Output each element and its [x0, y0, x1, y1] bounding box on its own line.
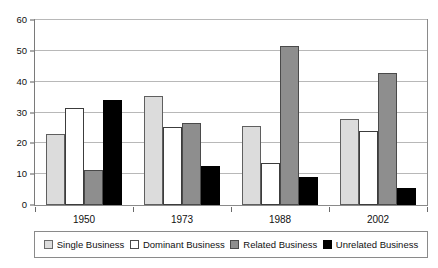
legend-label: Related Business [243, 240, 317, 250]
bar-2002-single [340, 119, 359, 205]
bar-1988-related [280, 46, 299, 205]
y-axis-tick-label: 40 [16, 77, 27, 87]
legend-label: Unrelated Business [336, 240, 418, 250]
legend-item-dominant: Dominant Business [130, 240, 225, 250]
x-axis-tick-mark [35, 207, 36, 212]
legend-swatch-dominant [130, 240, 139, 249]
legend-item-unrelated: Unrelated Business [323, 240, 418, 250]
bar-1950-dominant [65, 108, 84, 205]
chart-legend: Single BusinessDominant BusinessRelated … [34, 231, 428, 258]
x-axis-tick-mark [231, 207, 232, 212]
x-axis-tick-label: 1973 [171, 214, 193, 225]
bar-1988-dominant [261, 163, 280, 205]
x-axis-tick-label: 1988 [269, 214, 291, 225]
bar-1973-related [182, 123, 201, 205]
x-axis-tick-mark [133, 207, 134, 212]
bars-layer [35, 20, 427, 205]
y-axis-tick-label: 10 [16, 169, 27, 179]
bar-1973-unrelated [201, 166, 220, 205]
bar-1988-single [242, 126, 261, 205]
bar-2002-dominant [359, 131, 378, 205]
bar-1950-related [84, 170, 103, 205]
legend-item-single: Single Business [44, 240, 125, 250]
y-axis-tick-label: 50 [16, 46, 27, 56]
x-axis-tick-mark [329, 207, 330, 212]
legend-label: Dominant Business [143, 240, 225, 250]
bar-2002-related [378, 73, 397, 205]
y-axis-tick-label: 30 [16, 108, 27, 118]
y-axis-tick-label: 60 [16, 15, 27, 25]
bar-1988-unrelated [299, 177, 318, 205]
legend-swatch-related [230, 240, 239, 249]
legend-swatch-unrelated [323, 240, 332, 249]
bar-1973-dominant [163, 127, 182, 205]
x-axis-tick-label: 1950 [73, 214, 95, 225]
y-axis-tick-label: 20 [16, 139, 27, 149]
bar-1950-unrelated [103, 100, 122, 205]
legend-label: Single Business [57, 240, 125, 250]
y-axis-tick-label: 0 [22, 200, 27, 210]
y-axis: 0102030405060 [0, 0, 34, 210]
legend-swatch-single [44, 240, 53, 249]
x-axis: 1950197319882002 [34, 207, 428, 229]
x-axis-tick-label: 2002 [367, 214, 389, 225]
bar-1950-single [46, 134, 65, 205]
bar-chart: 0102030405060 1950197319882002 Single Bu… [0, 0, 438, 268]
x-axis-tick-mark [427, 207, 428, 212]
legend-item-related: Related Business [230, 240, 317, 250]
bar-2002-unrelated [397, 188, 416, 205]
bar-1973-single [144, 96, 163, 205]
